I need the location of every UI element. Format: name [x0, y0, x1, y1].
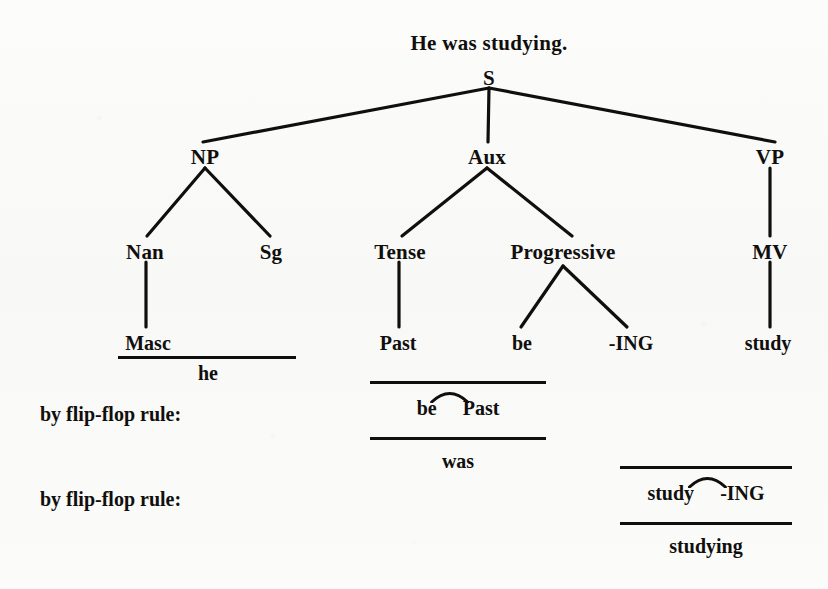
tree-node-progressive: Progressive	[510, 242, 615, 263]
flip-flop-rule-label-1: by flip-flop rule:	[40, 404, 181, 424]
tree-node-s: S	[483, 68, 495, 89]
tree-node-mv: MV	[752, 242, 787, 263]
branch-aux-tense	[402, 168, 487, 236]
branch-s-np	[203, 88, 489, 142]
flip-flop-rule-label-2: by flip-flop rule:	[40, 489, 181, 509]
derivation-1-morphemes: be Past	[417, 395, 500, 418]
derivation-2-morphemes: study -ING	[647, 480, 764, 503]
derivation-1-bottom-line	[370, 437, 546, 440]
tree-node-vp: VP	[756, 147, 784, 168]
tree-node-np: NP	[191, 147, 219, 168]
derivation-2-tie-arc-icon	[694, 480, 720, 500]
branch-aux-progressive	[487, 168, 572, 236]
branch-progressive-be	[521, 266, 563, 327]
branch-np-nan	[147, 168, 205, 236]
tree-leaf-study: study	[745, 333, 792, 353]
lexical-insertion-word-he: he	[198, 363, 218, 383]
derivation-1-result-was: was	[442, 451, 474, 471]
tree-leaf-past: Past	[380, 333, 417, 353]
lexical-insertion-rule-line	[118, 356, 296, 359]
tree-node-tense: Tense	[374, 242, 426, 263]
branch-s-aux	[488, 88, 489, 142]
tree-leaf-be: be	[512, 333, 532, 353]
derivation-2-top-line	[620, 466, 792, 469]
tree-node-sg: Sg	[260, 242, 283, 263]
branch-progressive-ing	[563, 266, 627, 327]
branch-s-vp	[489, 88, 775, 142]
sentence-title: He was studying.	[410, 33, 567, 54]
tree-leaf-masc: Masc	[125, 333, 171, 353]
tree-node-nan: Nan	[126, 242, 164, 263]
tree-node-aux: Aux	[468, 147, 506, 168]
derivation-2-bottom-line	[620, 522, 792, 525]
derivation-1-top-line	[370, 381, 546, 384]
derivation-2-result-studying: studying	[669, 536, 742, 556]
figure-canvas: He was studying. S NP Aux VP Nan Sg Tens…	[0, 0, 828, 589]
derivation-1-tie-arc-icon	[437, 395, 463, 415]
branch-np-sg	[205, 168, 270, 236]
tree-leaf-ing: -ING	[609, 333, 653, 353]
